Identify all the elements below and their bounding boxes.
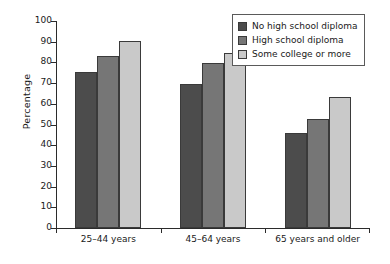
bar-group — [75, 21, 141, 228]
x-axis-group-label: 25–44 years — [56, 234, 161, 244]
legend-item: No high school diploma — [238, 19, 358, 33]
y-tick-label: 70 — [41, 77, 52, 87]
legend-item: Some college or more — [238, 47, 358, 61]
x-axis-line — [56, 228, 370, 229]
y-tick-label: 100 — [35, 15, 52, 25]
legend-item: High school diploma — [238, 33, 358, 47]
bar — [119, 41, 141, 228]
y-tick-label: 0 — [46, 222, 52, 232]
bar — [180, 84, 202, 228]
x-axis-group-label: 65 years and older — [265, 234, 370, 244]
y-tick-label: 30 — [41, 160, 52, 170]
y-tick-label: 20 — [41, 181, 52, 191]
bar — [97, 56, 119, 228]
chart-legend: No high school diplomaHigh school diplom… — [232, 14, 365, 66]
legend-label: High school diploma — [252, 36, 343, 45]
y-tick-label: 40 — [41, 139, 52, 149]
y-axis-line — [56, 21, 57, 228]
x-tick-mark — [56, 228, 57, 233]
legend-swatch — [238, 50, 247, 59]
bar-chart: Percentage 0102030405060708090100 25–44 … — [0, 0, 390, 264]
x-tick-mark — [161, 228, 162, 233]
x-tick-mark — [369, 228, 370, 233]
bar — [75, 72, 97, 228]
y-axis-title: Percentage — [21, 32, 32, 172]
legend-swatch — [238, 22, 247, 31]
legend-swatch — [238, 36, 247, 45]
y-tick-label: 50 — [41, 119, 52, 129]
x-tick-mark — [265, 228, 266, 233]
y-tick-label: 10 — [41, 201, 52, 211]
legend-label: Some college or more — [252, 50, 351, 59]
bar — [329, 97, 351, 228]
bar — [307, 119, 329, 228]
y-tick-label: 60 — [41, 98, 52, 108]
bar — [285, 133, 307, 228]
bar — [202, 63, 224, 228]
x-axis-group-label: 45–64 years — [161, 234, 266, 244]
bar — [224, 53, 246, 228]
y-tick-label: 90 — [41, 36, 52, 46]
y-tick-label: 80 — [41, 56, 52, 66]
legend-label: No high school diploma — [252, 22, 358, 31]
